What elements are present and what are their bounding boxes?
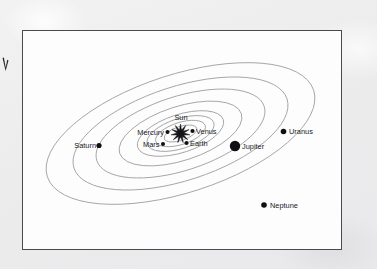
scan-edge-artifact: [1, 57, 10, 76]
figure-border-frame: [22, 30, 342, 250]
solar-system-figure-page: SunMercuryVenusEarthMarsJupiterSaturnUra…: [0, 0, 377, 269]
